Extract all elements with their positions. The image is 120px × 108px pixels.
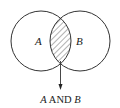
caption-set-b: B bbox=[74, 94, 81, 105]
set-a-label: A bbox=[34, 35, 42, 47]
venn-diagram: A B A AND B bbox=[0, 0, 120, 108]
caption-operator: AND bbox=[47, 94, 74, 105]
intersection-caption: A AND B bbox=[39, 94, 81, 105]
arrow-head-icon bbox=[59, 84, 63, 90]
set-b-label: B bbox=[76, 35, 83, 47]
